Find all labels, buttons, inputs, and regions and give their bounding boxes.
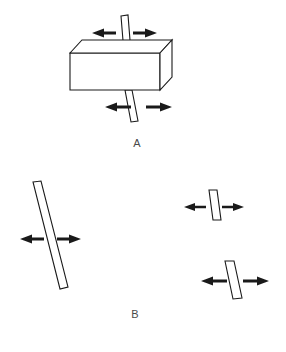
arrow-bottom-right [146, 103, 172, 112]
panel-a: A [70, 15, 172, 149]
diagram-canvas: A [0, 0, 286, 352]
arrow-upper-right-left [184, 203, 206, 211]
arrow-lower-right-left [201, 277, 227, 286]
rod-large-left [33, 181, 68, 289]
arrow-left-bar-left [20, 235, 44, 244]
panel-a-label: A [133, 137, 141, 149]
arrow-lower-right-right [243, 277, 269, 286]
panel-b: B [20, 181, 269, 320]
block-front-face [70, 53, 160, 90]
arrow-left-bar-right [57, 235, 81, 244]
arrow-top-left [92, 29, 116, 38]
block-top-face [70, 40, 172, 53]
arrow-top-right [133, 29, 157, 38]
panel-b-label: B [131, 308, 138, 320]
arrow-upper-right-right [222, 203, 244, 211]
rod-medium-lower-right [225, 261, 242, 299]
diagram-figure: A [0, 0, 286, 352]
rod-small-upper-right [209, 190, 221, 220]
